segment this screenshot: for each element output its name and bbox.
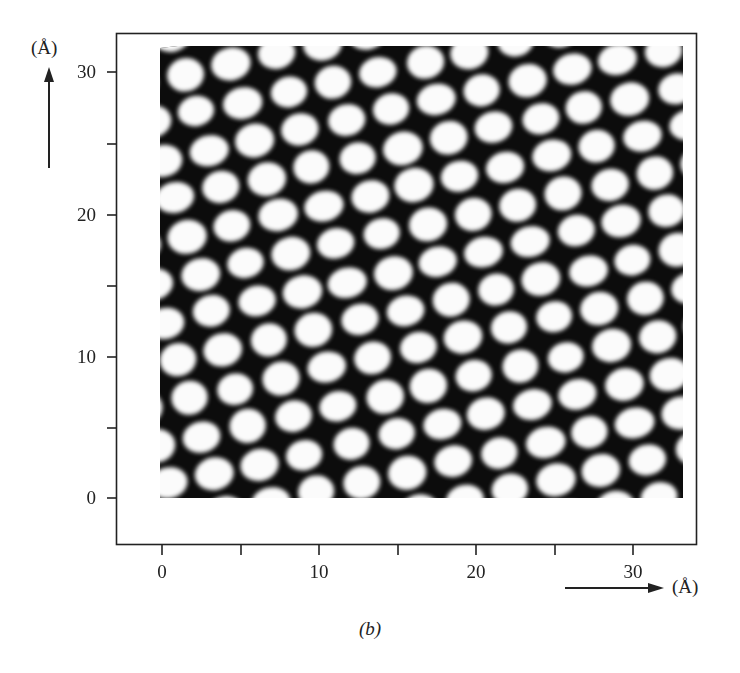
x-axis-ticks	[162, 545, 633, 555]
x-tick-label: 30	[613, 562, 653, 581]
lattice-spot	[501, 508, 543, 547]
x-tick-label: 0	[142, 562, 182, 581]
lattice-spot	[352, 502, 396, 541]
x-unit-label: (Å)	[672, 576, 698, 598]
lattice-spot	[677, 143, 722, 183]
lattice-spot	[123, 388, 166, 429]
x-axis-arrow-icon	[565, 583, 664, 593]
lattice-spot	[692, 345, 736, 383]
figure-caption: (b)	[0, 618, 740, 640]
lattice-spot	[681, 306, 723, 344]
lattice-spot	[685, 470, 728, 507]
x-tick-label: 10	[299, 562, 339, 581]
y-tick-label: 30	[56, 62, 96, 81]
lattice-spot	[116, 64, 161, 104]
lattice-spot	[390, 5, 434, 44]
y-axis-arrow-icon	[44, 67, 54, 168]
lattice-spot	[687, 19, 732, 60]
lattice-spot	[118, 227, 163, 266]
y-axis-ticks	[107, 72, 117, 498]
x-tick-label: 20	[456, 562, 496, 581]
lattice-spot	[547, 497, 591, 537]
y-tick-label: 0	[56, 488, 96, 507]
lattice-spot	[106, 186, 152, 228]
y-unit-label: (Å)	[31, 37, 57, 59]
y-tick-label: 10	[56, 347, 96, 366]
stm-image	[106, 1, 736, 551]
lattice-spot	[585, 1, 630, 42]
y-tick-label: 20	[56, 205, 96, 224]
lattice-spot	[203, 493, 246, 531]
lattice-spot	[111, 351, 153, 389]
lattice-spot	[159, 501, 203, 540]
lattice-spot	[538, 12, 581, 51]
lattice-spot	[197, 5, 240, 46]
